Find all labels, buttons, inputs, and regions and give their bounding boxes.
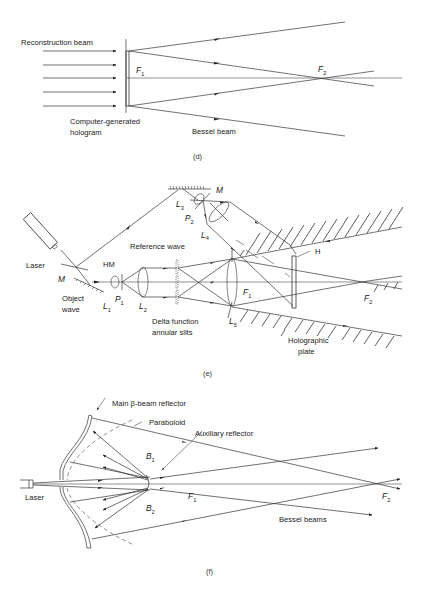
l3-label: L3 — [176, 199, 184, 211]
lens-l4 — [206, 199, 231, 224]
l4-label: L4 — [201, 230, 209, 241]
reconstruction-beam-arrows — [43, 51, 116, 106]
laser-label-f: Laser — [25, 493, 44, 502]
hologram-plate — [126, 39, 129, 113]
hologram-label-line2: hologram — [70, 128, 102, 137]
l2-label: L2 — [139, 301, 147, 313]
mirror-left-label: M — [58, 274, 65, 284]
p1-label: P1 — [115, 294, 124, 306]
holographic-plate-line2: plate — [298, 347, 314, 356]
caption-f: (f) — [206, 567, 213, 576]
f1-label-f: F1 — [188, 491, 196, 503]
figure-canvas: Reconstruction beam Computer-generated h… — [0, 0, 424, 589]
bessel-beams-label: Bessel beams — [279, 515, 327, 524]
b2-label: B2 — [146, 503, 155, 515]
object-wave-line2: wave — [61, 305, 80, 314]
f2-label-f: F2 — [382, 491, 390, 503]
caption-e: (e) — [203, 369, 212, 378]
l1-label: L1 — [103, 301, 111, 313]
delta-function-line2: annular slits — [152, 328, 193, 337]
p2-label: P2 — [185, 213, 194, 225]
main-reflector-label: Main β-beam reflector — [112, 399, 186, 408]
f2-label: F2 — [318, 64, 326, 76]
mirror-left — [74, 278, 104, 293]
panel-f: Main β-beam reflector Paraboloid Auxilia… — [20, 398, 402, 576]
f1-label-e: F1 — [243, 287, 251, 299]
h-label: H — [315, 247, 320, 256]
hologram-label-line1: Computer-generated — [70, 117, 140, 126]
bessel-beam-rays — [129, 22, 374, 136]
auxiliary-reflector-label: Auxiliary reflector — [195, 429, 254, 438]
holographic-plate-line1: Holographic — [288, 336, 329, 345]
l5-label: L5 — [229, 316, 237, 328]
object-wave-line1: Object — [62, 294, 85, 303]
mirror-top — [168, 186, 211, 189]
reference-wave-label: Reference wave — [130, 242, 185, 251]
delta-function-line1: Delta function — [152, 317, 198, 326]
laser-device-f — [20, 480, 33, 488]
panel-e: M L3 P2 L4 Reference wave H Laser HM M O… — [23, 185, 403, 378]
laser-device — [23, 213, 59, 252]
b1-label: B1 — [146, 451, 155, 463]
paraboloid-curve — [67, 420, 134, 545]
reflected-fan — [70, 431, 148, 528]
f2-label-e: F2 — [364, 293, 372, 305]
bessel-beam-label: Bessel beam — [192, 127, 236, 136]
f1-label: F1 — [136, 65, 144, 77]
panel-d: Reconstruction beam Computer-generated h… — [21, 22, 402, 161]
caption-d: (d) — [193, 152, 202, 161]
paraboloid-label: Paraboloid — [149, 418, 185, 427]
reconstruction-beam-label: Reconstruction beam — [21, 38, 93, 47]
mirror-top-label: M — [216, 185, 223, 195]
hm-label: HM — [103, 260, 115, 269]
laser-label-e: Laser — [26, 261, 45, 270]
